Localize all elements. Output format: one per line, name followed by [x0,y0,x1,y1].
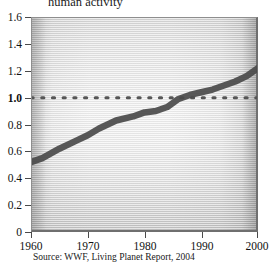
chart-figure: human activity 1.6 1.4 1.2 1.0 0.8 0.6 0… [0,0,269,266]
x-tick-mark [88,232,89,238]
y-tick-mark [25,151,31,152]
y-tick-mark [25,205,31,206]
y-axis-label-1-2: 1.2 [8,66,22,77]
plot-background-texture [32,18,256,230]
x-axis-label-1970: 1970 [68,240,108,252]
y-tick-mark [25,71,31,72]
x-axis-label-1990: 1990 [182,240,222,252]
y-tick-mark [25,98,31,99]
x-tick-mark [31,232,32,238]
plot-area [31,17,258,232]
x-tick-mark [145,232,146,238]
x-axis-label-2000: 2000 [237,240,269,252]
source-caption: Source: WWF, Living Planet Report, 2004 [33,252,195,262]
y-axis-label-0-6: 0.6 [8,146,22,157]
y-axis-label-1-6: 1.6 [8,12,22,23]
y-tick-mark [25,178,31,179]
x-tick-mark [257,232,258,238]
y-axis-label-0: 0 [16,227,22,238]
y-axis-label-1-4: 1.4 [8,39,22,50]
x-axis-label-1960: 1960 [11,240,51,252]
y-axis-label-0-2: 0.2 [8,200,22,211]
y-tick-mark [25,17,31,18]
plot-background-vignette [32,18,256,230]
x-axis-label-1980: 1980 [125,240,165,252]
chart-title: human activity [48,0,123,9]
x-tick-mark [202,232,203,238]
y-axis-label-1-0: 1.0 [8,93,22,104]
y-axis-label-0-8: 0.8 [8,120,22,131]
y-tick-mark [25,44,31,45]
y-axis-label-0-4: 0.4 [8,173,22,184]
y-tick-mark [25,125,31,126]
